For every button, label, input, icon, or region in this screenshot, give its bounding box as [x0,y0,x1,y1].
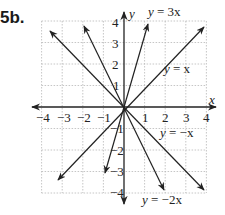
svg-text:2: 2 [112,57,119,72]
label-y-negx: y = −x [158,125,194,140]
label-y-neg2x: y = −2x [140,192,182,207]
svg-text:3: 3 [183,110,190,125]
svg-text:4: 4 [203,110,210,125]
svg-text:−3: −3 [57,110,71,125]
svg-text:−2: −2 [77,110,91,125]
svg-text:1: 1 [142,110,149,125]
label-y-3x: y = 3x [146,4,181,19]
line-y-x [58,27,204,180]
label-y-x: y = x [162,61,191,76]
svg-text:−3: −3 [110,164,124,179]
svg-text:4: 4 [112,15,119,30]
svg-text:−1: −1 [97,110,111,125]
y-axis-label: y [127,6,135,21]
line-y-negx [50,31,204,190]
svg-text:3: 3 [112,36,119,51]
svg-text:−1: −1 [110,121,124,136]
svg-text:−4: −4 [36,110,50,125]
x-axis-label: x [208,92,215,107]
coordinate-graph: −4 −3 −2 −1 1 2 3 4 x 4 3 2 1 −1 −2 −3 −… [0,0,225,215]
svg-text:1: 1 [113,78,120,93]
svg-text:2: 2 [162,110,169,125]
svg-text:−4: −4 [110,185,124,200]
svg-text:−2: −2 [110,143,124,158]
